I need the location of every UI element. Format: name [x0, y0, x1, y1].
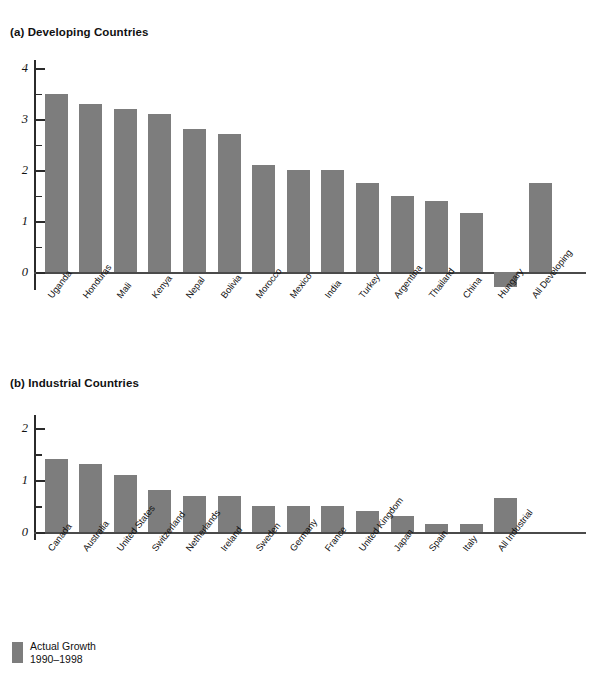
y-tick-minor	[36, 94, 42, 96]
bar	[460, 213, 483, 272]
y-tick-major	[36, 428, 45, 430]
bar	[114, 109, 137, 272]
legend: Actual Growth 1990–1998	[12, 640, 232, 668]
bar	[252, 165, 275, 272]
y-tick-minor	[36, 145, 42, 147]
y-tick-major	[36, 221, 45, 223]
y-tick-major	[36, 532, 45, 534]
bar	[391, 196, 414, 273]
bar	[287, 170, 310, 272]
bar	[183, 129, 206, 272]
panel-developing-countries: (a) Developing Countries UgandaHondurasM…	[0, 0, 600, 365]
panel-a-title: (a) Developing Countries	[10, 26, 149, 38]
y-tick-label: 1	[8, 215, 28, 228]
y-tick-label: 4	[8, 62, 28, 75]
y-tick-label: 0	[8, 266, 28, 279]
y-tick-major	[36, 272, 45, 274]
y-tick-major	[36, 170, 45, 172]
bar	[356, 183, 379, 272]
bar	[321, 170, 344, 272]
bar	[218, 134, 241, 272]
bar	[79, 104, 102, 272]
y-tick-minor	[36, 454, 42, 456]
y-tick-label: 0	[8, 526, 28, 539]
bar	[425, 201, 448, 272]
y-tick-major	[36, 68, 45, 70]
panel-industrial-countries: (b) Industrial Countries CanadaAustralia…	[0, 365, 600, 630]
bar	[45, 459, 68, 532]
y-tick-major	[36, 480, 45, 482]
y-tick-label: 3	[8, 113, 28, 126]
y-tick-major	[36, 119, 45, 121]
y-tick-minor	[36, 247, 42, 249]
panel-b-title: (b) Industrial Countries	[10, 377, 139, 389]
y-tick-label: 1	[8, 474, 28, 487]
y-tick-minor	[36, 506, 42, 508]
bar	[529, 183, 552, 272]
legend-swatch	[12, 642, 23, 663]
chart-a-plot-area	[34, 60, 586, 290]
bar	[45, 94, 68, 273]
chart-a-bars	[34, 60, 586, 290]
y-tick-minor	[36, 196, 42, 198]
bar	[460, 524, 483, 532]
legend-label: Actual Growth 1990–1998	[30, 640, 96, 665]
bar	[79, 464, 102, 532]
y-tick-label: 2	[8, 422, 28, 435]
bar	[148, 114, 171, 272]
y-tick-label: 2	[8, 164, 28, 177]
